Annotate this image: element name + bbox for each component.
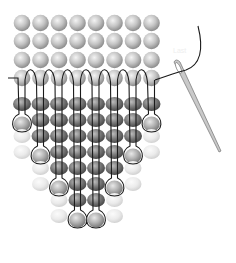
bead — [88, 70, 105, 87]
bead — [32, 33, 49, 50]
bead — [125, 15, 142, 32]
bead — [87, 97, 105, 111]
bead — [125, 177, 142, 191]
bead — [13, 97, 31, 111]
bead — [69, 129, 87, 143]
bead — [106, 161, 124, 175]
bead — [125, 33, 142, 50]
bead — [87, 129, 105, 143]
bead — [32, 70, 49, 87]
bead — [32, 113, 50, 127]
bead — [50, 97, 68, 111]
bead — [106, 33, 123, 50]
bead — [14, 33, 31, 50]
bead — [87, 177, 105, 191]
bead — [14, 145, 31, 159]
bead — [143, 97, 161, 111]
needle-icon — [174, 60, 221, 152]
bead — [106, 145, 124, 159]
bead — [124, 97, 142, 111]
bead — [106, 15, 123, 32]
bead — [69, 145, 87, 159]
bead — [51, 33, 68, 50]
bead — [51, 70, 68, 87]
bead — [88, 213, 105, 228]
bead — [125, 52, 142, 69]
bead — [143, 145, 160, 159]
bead — [14, 15, 31, 32]
bead — [50, 113, 68, 127]
bead — [32, 177, 49, 191]
bead — [50, 145, 68, 159]
bead — [51, 52, 68, 69]
bead — [87, 113, 105, 127]
bead — [87, 161, 105, 175]
bead — [69, 33, 86, 50]
bead — [32, 97, 50, 111]
bead — [106, 70, 123, 87]
bead — [69, 177, 87, 191]
bead — [50, 161, 68, 175]
bead — [88, 33, 105, 50]
bead — [69, 15, 86, 32]
bead — [143, 52, 160, 69]
annotation-label: Last — [173, 47, 186, 54]
bead — [69, 52, 86, 69]
bead — [32, 52, 49, 69]
bead — [51, 15, 68, 32]
bead — [143, 33, 160, 50]
bead — [32, 15, 49, 32]
bead — [106, 97, 124, 111]
bead — [50, 129, 68, 143]
bead — [124, 113, 142, 127]
bead-grid — [13, 15, 161, 228]
bead — [87, 145, 105, 159]
bead — [88, 15, 105, 32]
bead — [69, 213, 86, 228]
bead — [14, 52, 31, 69]
bead — [106, 209, 123, 223]
bead — [69, 97, 87, 111]
bead — [51, 209, 68, 223]
bead — [106, 113, 124, 127]
bead — [124, 129, 142, 143]
bead — [106, 52, 123, 69]
bead — [143, 15, 160, 32]
bead — [87, 193, 105, 207]
bead — [69, 161, 87, 175]
bead — [32, 129, 50, 143]
bead — [143, 70, 160, 87]
beading-diagram: Last — [0, 0, 236, 263]
bead — [69, 193, 87, 207]
bead — [106, 129, 124, 143]
bead — [125, 70, 142, 87]
bead — [88, 52, 105, 69]
bead — [69, 113, 87, 127]
bead — [69, 70, 86, 87]
